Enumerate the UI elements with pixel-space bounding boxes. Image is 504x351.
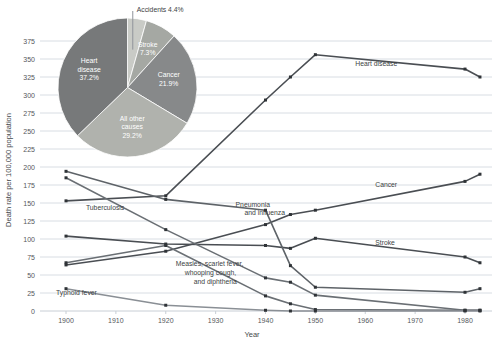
series-marker	[314, 209, 317, 212]
y-axis-tick-label: 100	[23, 236, 35, 243]
y-axis-tick-label: 225	[23, 146, 35, 153]
pie-slice-label-line: Heart	[81, 57, 98, 64]
y-axis-tick-label: 75	[27, 254, 35, 261]
series-marker	[164, 194, 167, 197]
x-axis-tick-label: 1960	[357, 317, 373, 324]
y-axis-tick-label: 250	[23, 128, 35, 135]
pie-slice-label-line: 21.9%	[159, 80, 178, 87]
x-axis-tick-label: 1950	[308, 317, 324, 324]
y-axis-tick-label: 375	[23, 38, 35, 45]
series-label: Stroke	[375, 239, 395, 246]
y-axis-tick-label: 50	[27, 272, 35, 279]
series-line	[66, 236, 480, 263]
series-marker	[464, 180, 467, 183]
x-axis-tick-label: 1900	[58, 317, 74, 324]
series-marker	[164, 304, 167, 307]
series-marker	[264, 223, 267, 226]
series-marker	[65, 176, 68, 179]
pie-callout-label: Accidents 4.4%	[137, 6, 184, 13]
series-marker	[289, 213, 292, 216]
series-marker	[164, 250, 167, 253]
series-line	[66, 171, 480, 292]
pie-slice-label-line: Cancer	[158, 71, 181, 78]
series-label: Tuberculosis	[86, 204, 125, 211]
y-axis-tick-label: 325	[23, 74, 35, 81]
pie-slice-label-line: 29.2%	[123, 132, 142, 139]
series-label: Typhoid fever	[56, 289, 98, 297]
y-axis-ticks-group: 0255075100125150175200225250275300325350…	[23, 38, 35, 315]
series-marker	[314, 53, 317, 56]
series-marker	[289, 76, 292, 79]
pie-slice-label: Cancer21.9%	[158, 71, 181, 86]
series-marker	[478, 287, 481, 290]
y-axis-tick-label: 150	[23, 200, 35, 207]
pie-slice-label-line: All other	[120, 115, 146, 122]
x-axis-tick-label: 1910	[108, 317, 124, 324]
series-label: Heart disease	[355, 60, 397, 67]
y-axis-tick-label: 275	[23, 110, 35, 117]
series-marker	[65, 170, 68, 173]
series-marker	[478, 310, 481, 313]
series-marker	[264, 294, 267, 297]
series-label: Measles, scarlet fever,whooping cough,an…	[176, 260, 244, 285]
pie-slice-label: All othercauses29.2%	[120, 115, 146, 139]
series-label-line: Heart disease	[355, 60, 397, 67]
chart-canvas: 0255075100125150175200225250275300325350…	[0, 0, 504, 351]
y-axis-tick-label: 200	[23, 164, 35, 171]
series-marker	[164, 228, 167, 231]
pie-slice-label: Stroke7.3%	[138, 41, 158, 56]
series-label-line: and diphtheria	[194, 278, 237, 286]
series-label-line: Pneumonia	[236, 201, 271, 208]
series-marker	[314, 237, 317, 240]
series-marker	[65, 199, 68, 202]
pie-slice-label-line: causes	[121, 123, 143, 130]
series-label-line: Typhoid fever	[56, 289, 98, 297]
x-axis-tick-label: 1970	[407, 317, 423, 324]
x-axis-tick-label: 1920	[158, 317, 174, 324]
series-marker	[464, 291, 467, 294]
y-axis-tick-label: 0	[31, 308, 35, 315]
series-label: Cancer	[375, 181, 398, 188]
pie-slice-label-line: Stroke	[138, 41, 158, 48]
series-marker	[264, 99, 267, 102]
series-marker	[289, 264, 292, 267]
y-axis-tick-label: 25	[27, 290, 35, 297]
y-axis-tick-label: 300	[23, 92, 35, 99]
series-marker	[478, 76, 481, 79]
series-label-line: whooping cough,	[184, 269, 237, 277]
series-marker	[164, 244, 167, 247]
series-label-line: Cancer	[375, 181, 398, 188]
x-axis-tick-label: 1930	[208, 317, 224, 324]
series-marker	[478, 173, 481, 176]
x-axis-group: 190019101920193019401950196019701980	[58, 311, 473, 324]
series-marker	[289, 310, 292, 313]
series-marker	[289, 247, 292, 250]
x-axis-tick-label: 1980	[457, 317, 473, 324]
series-label-line: Stroke	[375, 239, 395, 246]
y-axis-tick-label: 125	[23, 218, 35, 225]
series-marker	[264, 309, 267, 312]
y-axis-tick-label: 175	[23, 182, 35, 189]
death-rate-line-chart: 0255075100125150175200225250275300325350…	[0, 0, 504, 351]
series-marker	[164, 198, 167, 201]
series-marker	[464, 310, 467, 313]
pie-slice-label-line: 37.2%	[79, 74, 98, 81]
y-axis-tick-label: 350	[23, 56, 35, 63]
series-marker	[264, 276, 267, 279]
series-marker	[65, 235, 68, 238]
y-axis-title: Death rate per 100,000 population	[4, 113, 13, 227]
pie-slice-label-line: disease	[77, 66, 101, 73]
series-line	[66, 289, 480, 311]
series-label-line: and influenza	[245, 209, 286, 216]
series-marker	[264, 244, 267, 247]
series-line	[66, 245, 480, 310]
x-axis-title: Year	[244, 330, 260, 339]
series-marker	[314, 294, 317, 297]
x-axis-tick-label: 1940	[258, 317, 274, 324]
series-marker	[464, 256, 467, 259]
series-marker	[464, 68, 467, 71]
series-label-line: Measles, scarlet fever,	[176, 260, 244, 267]
series-marker	[289, 281, 292, 284]
series-marker	[314, 286, 317, 289]
pie-slice-label-line: 7.3%	[140, 49, 156, 56]
